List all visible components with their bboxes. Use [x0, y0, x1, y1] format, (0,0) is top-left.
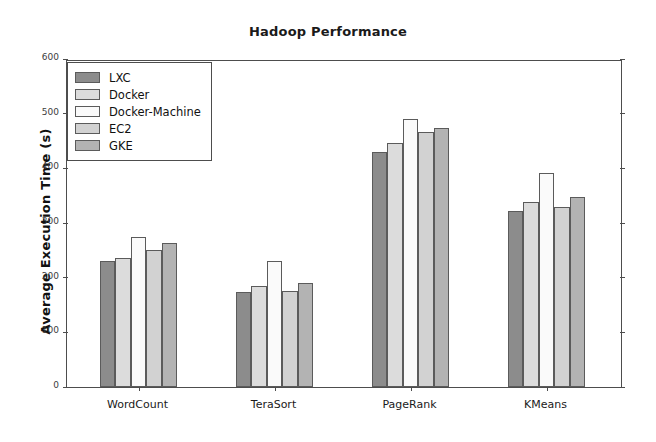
- y-tick-mark: [63, 277, 68, 278]
- legend-label: LXC: [109, 71, 130, 85]
- bar: [100, 261, 115, 387]
- bar: [403, 119, 418, 387]
- legend-item-lxc[interactable]: LXC: [75, 69, 201, 86]
- y-tick-mark: [63, 387, 68, 388]
- bar: [282, 291, 297, 387]
- y-tick-label: 200: [23, 271, 59, 281]
- bar: [146, 250, 161, 387]
- legend-swatch-icon: [75, 123, 100, 134]
- legend-swatch-icon: [75, 106, 100, 117]
- legend-label: Docker-Machine: [109, 105, 201, 119]
- bar: [539, 173, 554, 387]
- bar: [434, 128, 449, 387]
- bar: [267, 261, 282, 387]
- bar: [508, 211, 523, 387]
- y-tick-label: 600: [23, 52, 59, 62]
- y-tick-mark: [63, 332, 68, 333]
- legend-item-docker[interactable]: Docker: [75, 86, 201, 103]
- bar: [236, 292, 251, 387]
- y-tick-mark: [63, 223, 68, 224]
- y-tick-mark-right: [620, 277, 625, 278]
- legend-item-docker-machine[interactable]: Docker-Machine: [75, 103, 201, 120]
- bar: [387, 143, 402, 387]
- legend-swatch-icon: [75, 140, 100, 151]
- bar: [131, 237, 146, 387]
- x-category-label: PageRank: [382, 398, 436, 411]
- y-tick-mark-right: [620, 223, 625, 224]
- y-tick-mark-right: [620, 59, 625, 60]
- y-tick-label: 100: [23, 325, 59, 335]
- bar: [418, 132, 433, 387]
- legend-item-gke[interactable]: GKE: [75, 137, 201, 154]
- bar: [372, 152, 387, 387]
- legend-label: GKE: [109, 139, 133, 153]
- bar: [162, 243, 177, 387]
- bar: [570, 197, 585, 387]
- legend-label: Docker: [109, 88, 149, 102]
- bar: [523, 202, 538, 387]
- y-tick-label: 300: [23, 216, 59, 226]
- y-tick-mark-right: [620, 168, 625, 169]
- chart-legend: LXCDockerDocker-MachineEC2GKE: [67, 62, 212, 161]
- chart-title: Hadoop Performance: [0, 24, 656, 39]
- y-tick-label: 0: [23, 380, 59, 390]
- bar: [115, 258, 130, 387]
- y-tick-mark: [63, 59, 68, 60]
- y-tick-mark-right: [620, 113, 625, 114]
- legend-swatch-icon: [75, 89, 100, 100]
- legend-label: EC2: [109, 122, 132, 136]
- y-tick-label: 500: [23, 107, 59, 117]
- y-tick-mark-right: [620, 332, 625, 333]
- legend-item-ec2[interactable]: EC2: [75, 120, 201, 137]
- legend-swatch-icon: [75, 72, 100, 83]
- y-tick-label: 400: [23, 161, 59, 171]
- bar: [298, 283, 313, 387]
- y-tick-mark: [63, 168, 68, 169]
- bar: [251, 286, 266, 387]
- x-category-label: KMeans: [524, 398, 567, 411]
- x-category-label: TeraSort: [251, 398, 296, 411]
- chart-figure: Hadoop Performance Average Execution Tim…: [0, 0, 656, 442]
- bar: [554, 207, 569, 387]
- y-tick-mark-right: [620, 387, 625, 388]
- x-category-label: WordCount: [107, 398, 168, 411]
